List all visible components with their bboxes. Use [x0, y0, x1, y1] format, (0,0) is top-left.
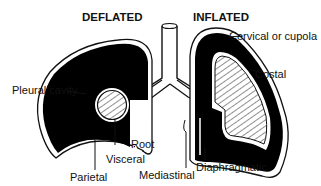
label-cervical: Cervical or cupola [229, 31, 317, 42]
label-mediastinal: Mediastinal [139, 170, 195, 181]
label-visceral: Visceral [106, 154, 145, 165]
label-pleural-cavity: Pleural cavity [12, 85, 77, 96]
label-costal: Costal [255, 69, 286, 80]
heading-deflated: DEFLATED [82, 12, 142, 24]
heading-inflated: INFLATED [193, 12, 249, 24]
pleura-diagram: DEFLATED INFLATED Pleural cavity Cervica… [0, 0, 321, 186]
label-root: Root [131, 139, 154, 150]
label-parietal: Parietal [70, 172, 107, 183]
label-diaphragmatic: Diaphragmatic [196, 162, 267, 173]
